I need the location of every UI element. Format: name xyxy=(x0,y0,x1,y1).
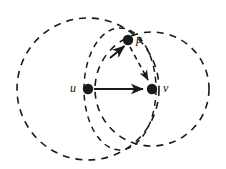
node-u[interactable] xyxy=(83,84,93,94)
node-label-v: v xyxy=(163,82,168,94)
node-label-u: u xyxy=(70,82,76,94)
figure-canvas: u v p xyxy=(0,0,226,169)
node-p[interactable] xyxy=(123,35,133,45)
edge-p-v xyxy=(130,47,148,80)
diagram-svg xyxy=(0,0,226,169)
node-v[interactable] xyxy=(147,84,157,94)
node-label-p: p xyxy=(136,33,142,45)
